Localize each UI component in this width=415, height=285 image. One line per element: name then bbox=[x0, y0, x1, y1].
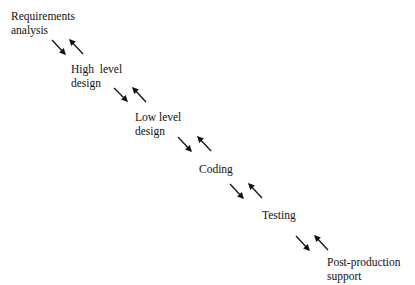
stage-post-production-support: Post-production support bbox=[327, 255, 400, 283]
stage-low-level-design: Low level design bbox=[135, 110, 181, 138]
stage-label-line: support bbox=[327, 269, 400, 283]
stage-label-line: Testing bbox=[262, 208, 296, 222]
up-left-arrow-icon bbox=[198, 137, 211, 151]
stage-high-level-design: High level design bbox=[71, 62, 122, 90]
stage-label-line: Low level bbox=[135, 110, 181, 124]
waterfall-diagram: Requirements analysis High level design … bbox=[0, 0, 415, 285]
up-left-arrow-icon bbox=[315, 236, 328, 250]
arrow-layer bbox=[0, 0, 415, 285]
stage-label-line: Coding bbox=[199, 162, 233, 176]
up-left-arrow-icon bbox=[133, 88, 146, 102]
stage-label-line: analysis bbox=[11, 23, 75, 37]
stage-testing: Testing bbox=[262, 208, 296, 222]
down-right-arrow-icon bbox=[230, 184, 243, 198]
stage-requirements-analysis: Requirements analysis bbox=[11, 9, 75, 37]
up-left-arrow-icon bbox=[249, 184, 262, 198]
stage-label-line: Requirements bbox=[11, 9, 75, 23]
stage-label-line: Post-production bbox=[327, 255, 400, 269]
up-left-arrow-icon bbox=[70, 40, 83, 54]
down-right-arrow-icon bbox=[52, 40, 65, 54]
stage-label-line: High level bbox=[71, 62, 122, 76]
stage-coding: Coding bbox=[199, 162, 233, 176]
down-right-arrow-icon bbox=[178, 137, 191, 151]
stage-label-line: design bbox=[71, 76, 122, 90]
down-right-arrow-icon bbox=[296, 236, 309, 250]
stage-label-line: design bbox=[135, 124, 181, 138]
